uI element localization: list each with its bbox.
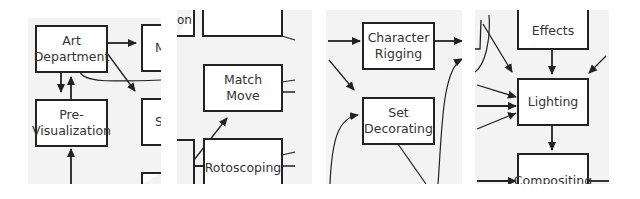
node-label: Effects — [532, 23, 575, 39]
node-partial-on-label: on — [177, 13, 192, 27]
diagram-panel-1: ArtDepartment Pre-Visualization M S — [28, 18, 161, 184]
node-compositing: Compositing — [517, 153, 589, 184]
node-art-department: ArtDepartment — [35, 25, 108, 73]
diagram-panel-3: CharacterRigging SetDecorating — [326, 10, 462, 184]
node-set-decorating: SetDecorating — [362, 97, 435, 145]
node-label: Set — [364, 105, 433, 121]
node-label: Character — [368, 30, 430, 46]
node-label: Match — [224, 72, 262, 88]
node-lighting: Lighting — [517, 78, 589, 126]
node-effects: Effects — [517, 10, 589, 50]
node-label: Department — [34, 49, 110, 65]
node-label: Compositing — [514, 173, 592, 184]
node-label: Rotoscoping — [205, 160, 282, 176]
node-label: Rigging — [368, 46, 430, 62]
node-label: Art — [34, 33, 110, 49]
node-character-rigging: CharacterRigging — [362, 22, 435, 70]
node-rotoscoping: Rotoscoping — [203, 138, 283, 184]
node-label: Visualization — [32, 123, 111, 139]
node-partial-s-label: S — [155, 114, 161, 129]
node-label: Pre- — [32, 107, 111, 123]
diagram-panel-4: Effects Lighting Compositing — [475, 10, 609, 184]
node-partial-m-label: M — [155, 40, 161, 55]
node-label: Decorating — [364, 121, 433, 137]
node-label: Lighting — [528, 94, 579, 110]
diagram-panel-2: on MatchMove Rotoscoping — [177, 10, 312, 184]
node-match-move: MatchMove — [203, 64, 283, 112]
node-label: Move — [224, 88, 262, 104]
node-pre-visualization: Pre-Visualization — [35, 99, 108, 147]
